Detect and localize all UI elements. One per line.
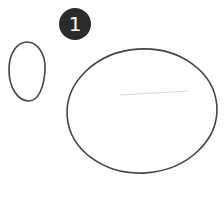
large-oval bbox=[63, 44, 221, 178]
small-egg-oval bbox=[9, 42, 45, 101]
sketch-drawing bbox=[0, 0, 224, 224]
drawing-canvas: 1 bbox=[0, 0, 224, 224]
guide-line bbox=[120, 91, 188, 95]
